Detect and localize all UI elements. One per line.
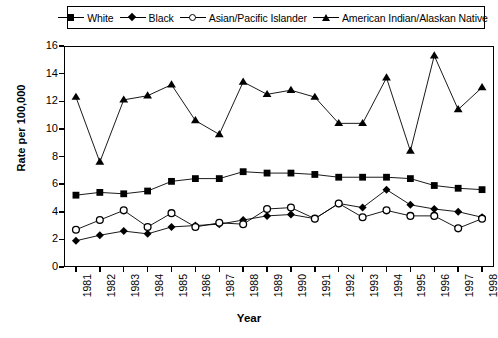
- y-axis-tick-label: 16: [36, 39, 58, 51]
- data-point-marker-filled-triangle: [382, 73, 391, 80]
- x-axis-tick-label: 1992: [344, 274, 356, 297]
- x-axis-tick-mark: [147, 267, 149, 272]
- x-axis-tick-label: 1989: [272, 274, 284, 297]
- data-point-marker-open-circle: [335, 200, 342, 207]
- data-point-marker-open-circle: [359, 214, 366, 221]
- y-axis-labels: 0246810121416: [33, 46, 58, 267]
- data-point-marker-filled-triangle: [143, 91, 152, 98]
- legend-marker-filled-diamond-icon: [120, 13, 146, 23]
- x-axis-tick-mark: [338, 267, 340, 272]
- data-point-marker-filled-triangle: [72, 93, 81, 100]
- x-axis-tick-mark: [242, 267, 244, 272]
- legend-item-american-indian-alaskan-native: American Indian/Alaskan Native: [313, 12, 494, 24]
- data-point-marker-filled-square: [240, 168, 247, 175]
- data-point-marker-filled-diamond: [430, 205, 438, 213]
- legend-marker-filled-triangle-icon: [313, 13, 339, 23]
- x-axis-tick-mark: [123, 267, 125, 272]
- data-point-marker-open-circle: [479, 215, 486, 222]
- series-line: [76, 203, 482, 229]
- data-point-marker-filled-square: [335, 174, 342, 181]
- data-point-marker-filled-square: [383, 174, 390, 181]
- legend-label-asian-pacific-islander: Asian/Pacific Islander: [209, 12, 307, 24]
- data-point-marker-open-circle: [431, 212, 438, 219]
- x-axis-tick-mark: [386, 267, 388, 272]
- data-point-marker-filled-triangle: [215, 130, 224, 137]
- y-axis-tick-label: 0: [36, 260, 58, 272]
- data-point-marker-filled-square: [216, 175, 223, 182]
- y-axis-tick-label: 4: [36, 205, 58, 217]
- data-point-marker-filled-diamond: [144, 230, 152, 238]
- data-point-marker-open-circle: [407, 212, 414, 219]
- data-point-marker-filled-square: [288, 170, 295, 177]
- data-point-marker-open-circle: [216, 219, 223, 226]
- data-point-marker-filled-square: [73, 192, 80, 199]
- data-point-marker-filled-square: [431, 182, 438, 189]
- x-axis-tick-label: 1986: [200, 274, 212, 297]
- data-point-marker-filled-triangle: [406, 147, 415, 154]
- data-point-marker-filled-triangle: [358, 119, 367, 126]
- series-line: [76, 172, 482, 195]
- data-point-marker-filled-triangle: [287, 86, 296, 93]
- data-point-marker-open-circle: [240, 221, 247, 228]
- legend-label-black: Black: [149, 12, 174, 24]
- x-axis-tick-mark: [314, 267, 316, 272]
- data-point-marker-filled-diamond: [120, 227, 128, 235]
- x-axis-tick-mark: [457, 267, 459, 272]
- series-line: [76, 56, 482, 162]
- data-point-marker-filled-square: [120, 190, 127, 197]
- legend-item-white: White: [58, 12, 119, 24]
- data-point-marker-open-circle: [264, 206, 271, 213]
- data-point-marker-filled-triangle: [95, 158, 104, 165]
- legend-label-white: White: [87, 12, 113, 24]
- data-point-marker-filled-diamond: [287, 211, 295, 219]
- data-point-marker-filled-diamond: [72, 237, 80, 245]
- x-axis-tick-label: 1996: [439, 274, 451, 297]
- y-axis-tick-label: 8: [36, 150, 58, 162]
- x-axis-tick-mark: [171, 267, 173, 272]
- data-point-marker-open-circle: [288, 204, 295, 211]
- y-axis-tick-label: 2: [36, 232, 58, 244]
- data-point-marker-filled-square: [359, 174, 366, 181]
- series-asian-pacific-islander: [73, 200, 486, 233]
- legend-marker-filled-square-icon: [58, 13, 84, 23]
- x-axis-tick-label: 1993: [368, 274, 380, 297]
- x-axis-tick-mark: [290, 267, 292, 272]
- data-point-marker-open-circle: [383, 207, 390, 214]
- data-point-marker-filled-diamond: [96, 231, 104, 239]
- x-axis-tick-mark: [266, 267, 268, 272]
- data-point-marker-open-circle: [311, 215, 318, 222]
- series-white: [73, 168, 486, 198]
- data-point-marker-open-circle: [120, 207, 127, 214]
- data-point-marker-filled-diamond: [454, 208, 462, 216]
- data-point-marker-filled-diamond: [383, 186, 391, 194]
- x-axis-tick-mark: [75, 267, 77, 272]
- data-point-marker-filled-triangle: [191, 116, 200, 123]
- x-axis-tick-label: 1991: [320, 274, 332, 297]
- x-axis-tick-label: 1985: [177, 274, 189, 297]
- x-axis-tick-mark: [481, 267, 483, 272]
- x-axis-tick-label: 1997: [463, 274, 475, 297]
- x-axis-tick-label: 1982: [105, 274, 117, 297]
- legend-item-black: Black: [120, 12, 180, 24]
- data-point-marker-filled-square: [479, 186, 486, 193]
- y-axis-tick-label: 6: [36, 177, 58, 189]
- x-axis-tick-mark: [434, 267, 436, 272]
- series-black: [72, 186, 486, 245]
- y-axis-tick-label: 12: [36, 94, 58, 106]
- data-point-marker-filled-square: [192, 175, 199, 182]
- x-axis-tick-mark: [219, 267, 221, 272]
- y-axis-tick-label: 10: [36, 122, 58, 134]
- series-line: [76, 190, 482, 241]
- legend-item-asian-pacific-islander: Asian/Pacific Islander: [180, 12, 313, 24]
- data-point-marker-filled-diamond: [168, 223, 176, 231]
- x-axis-tick-mark: [195, 267, 197, 272]
- x-axis-tick-mark: [410, 267, 412, 272]
- data-point-marker-open-circle: [168, 210, 175, 217]
- data-point-marker-filled-triangle: [167, 80, 176, 87]
- x-axis-tick-label: 1983: [129, 274, 141, 297]
- data-point-marker-open-circle: [144, 224, 151, 231]
- y-axis-title: Rate per 100,000: [15, 63, 27, 193]
- series-american-indian-alaskan-native: [72, 51, 487, 165]
- data-point-marker-filled-diamond: [263, 212, 271, 220]
- data-point-marker-filled-square: [311, 171, 318, 178]
